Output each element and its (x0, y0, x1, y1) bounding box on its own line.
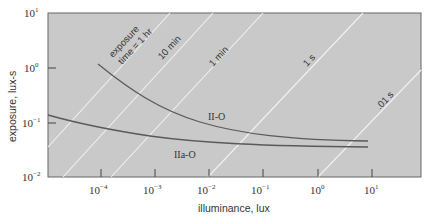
plot-area (48, 13, 421, 177)
curve-label-IIa-O: IIa-O (174, 149, 196, 160)
y-tick-label: 100 (24, 61, 39, 74)
x-tick-labels: 10−4 10−3 10−2 10−1 100 101 (89, 183, 379, 196)
x-axis-title: illuminance, lux (198, 202, 271, 214)
chart-figure: exposure time = 1 hr 10 min 1 min 1 s .0… (0, 0, 426, 219)
y-axis-title: exposure, lux-s (6, 71, 18, 142)
x-tick-label: 100 (310, 183, 325, 196)
y-tick-label: 10−1 (22, 116, 41, 129)
y-tick-label: 101 (24, 6, 39, 19)
x-tick-label: 10−1 (251, 183, 270, 196)
x-tick-label: 10−4 (89, 183, 108, 196)
x-tick-label: 10−2 (197, 183, 216, 196)
x-tick-label: 101 (364, 183, 379, 196)
x-tick-label: 10−3 (143, 183, 162, 196)
curve-label-II-O: II-O (208, 111, 225, 122)
y-tick-label: 10−2 (22, 170, 41, 183)
y-tick-labels: 101 100 10−1 10−2 (22, 6, 41, 183)
